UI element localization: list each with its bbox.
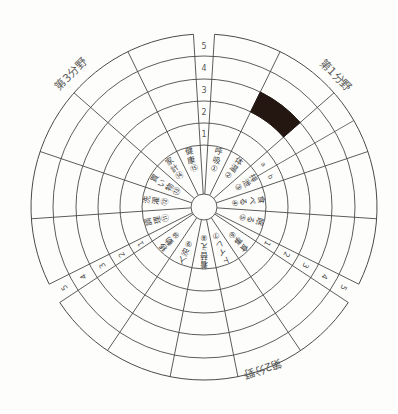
polar-grid-svg: 呼吸①体温②排泄③ab食べる④眠る⑤食事⑥トイレ⑦着替え⑧入浴⑨移動⑩調理⑪洗濯…: [0, 0, 398, 414]
scale-number: 4: [201, 64, 206, 73]
scale-number: 2: [201, 108, 206, 117]
item-label-char: え: [200, 242, 208, 251]
item-label-char: 着: [200, 260, 208, 270]
scale-number: 3: [201, 86, 206, 95]
polar-assessment-chart: 呼吸①体温②排泄③ab食べる④眠る⑤食事⑥トイレ⑦着替え⑧入浴⑨移動⑩調理⑪洗濯…: [0, 0, 398, 414]
hub-circle: [191, 194, 217, 220]
scale-number: 1: [201, 130, 206, 139]
item-label-char: ⑧: [200, 233, 207, 242]
assessment-chart-page: 呼吸①体温②排泄③ab食べる④眠る⑤食事⑥トイレ⑦着替え⑧入浴⑨移動⑩調理⑪洗濯…: [0, 0, 398, 414]
item-label-char: ④: [230, 199, 240, 207]
item-label-char: ⑫: [160, 197, 170, 206]
item-label-char: 替: [200, 251, 208, 261]
scale-number: 5: [201, 42, 206, 51]
